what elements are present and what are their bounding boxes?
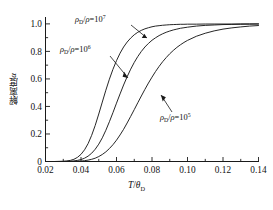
- label-rho-1e7-eq: =10: [90, 15, 103, 24]
- x-tick-labels: 0.020.040.060.080.100.120.14: [37, 165, 267, 175]
- x-tick-label: 0.06: [108, 165, 125, 175]
- figure-container: 0.020.040.060.080.100.120.14 00.20.40.60…: [0, 0, 273, 210]
- x-axis-label-sub: D: [140, 185, 145, 192]
- x-tick-label: 0.14: [250, 165, 267, 175]
- axes-group: [46, 17, 260, 162]
- label-rho-1e7-exp: 7: [103, 14, 106, 20]
- label-rho-1e5-exp: 5: [188, 112, 191, 118]
- label-rho-1e6-exp: 6: [88, 44, 91, 50]
- y-tick-label: 1.0: [30, 19, 42, 29]
- x-tick-label: 0.04: [73, 165, 90, 175]
- label-rho-1e5-arrowhead: [161, 95, 166, 102]
- annotation-leaders: [110, 25, 172, 112]
- dissociation-degree-chart: 0.020.040.060.080.100.120.14 00.20.40.60…: [0, 0, 273, 210]
- x-tick-label: 0.12: [215, 165, 232, 175]
- y-axis-label-text: 解离度α: [9, 73, 18, 105]
- x-tick-label: 0.08: [144, 165, 161, 175]
- y-tick-label: 0.2: [30, 129, 42, 139]
- label-rho-1e5-eq: =10: [175, 113, 188, 122]
- y-tick-label: 0.8: [30, 47, 42, 57]
- x-tick-label: 0.10: [179, 165, 196, 175]
- y-tick-label: 0.4: [30, 102, 42, 112]
- x-axis-label: T/θD: [0, 180, 273, 192]
- y-tick-label: 0: [37, 157, 42, 167]
- y-axis-label: 解离度α: [6, 56, 20, 122]
- y-axis-label-cn: 解离度: [8, 78, 18, 105]
- y-tick-group: [46, 24, 51, 162]
- label-rho-1e7: ρD/ρ=107: [74, 14, 106, 25]
- y-tick-labels: 00.20.40.60.81.0: [30, 19, 42, 167]
- label-rho-1e5: ρD/ρ=105: [159, 112, 191, 123]
- label-rho-1e6: ρD/ρ=106: [59, 44, 91, 55]
- y-axis-label-alpha: α: [8, 73, 18, 78]
- y-tick-label: 0.6: [30, 74, 42, 84]
- label-rho-1e6-eq: =10: [75, 45, 88, 54]
